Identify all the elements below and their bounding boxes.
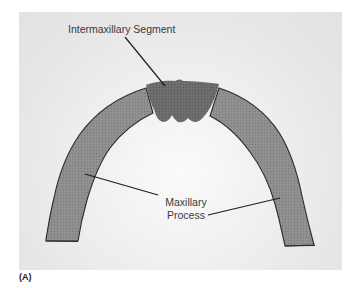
left-maxillary-leader-line bbox=[85, 174, 158, 195]
intermaxillary-segment-label: Intermaxillary Segment bbox=[68, 23, 175, 36]
intermaxillary-segment bbox=[146, 80, 219, 123]
left-maxillary-process bbox=[46, 88, 153, 241]
right-maxillary-process bbox=[210, 88, 314, 246]
maxillary-label-line1: Maxillary bbox=[160, 196, 212, 209]
intermaxillary-leader-line bbox=[125, 37, 165, 86]
palate-arch-diagram bbox=[0, 0, 355, 288]
panel-letter: (A) bbox=[19, 272, 32, 282]
maxillary-process-label: Maxillary Process bbox=[160, 196, 212, 222]
maxillary-label-line2: Process bbox=[160, 209, 212, 222]
right-maxillary-leader-line bbox=[208, 198, 280, 215]
